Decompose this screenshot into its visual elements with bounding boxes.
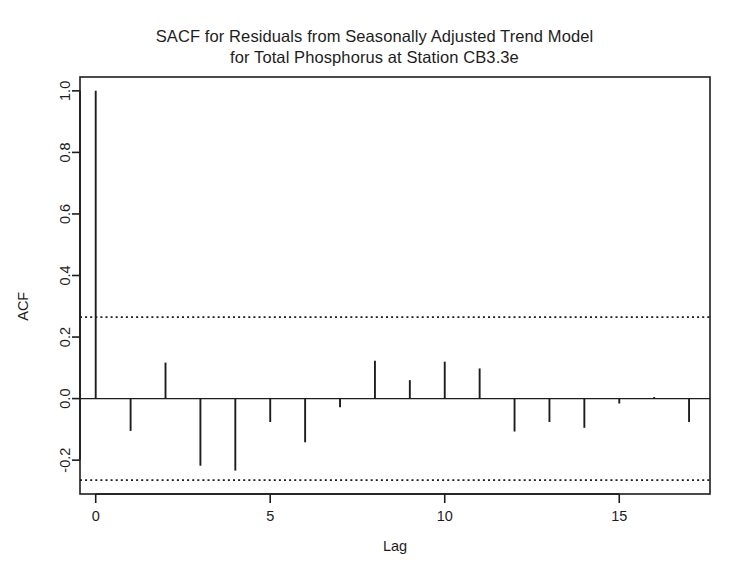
plot-canvas: 1.00.80.60.40.20.0-0.2051015LagACF [0, 0, 749, 580]
x-axis-tick-label: 15 [611, 508, 627, 524]
y-axis-tick-label: 0.0 [57, 389, 73, 409]
y-axis-tick-label: 0.4 [57, 265, 73, 285]
y-axis-tick-label: 0.8 [57, 142, 73, 162]
x-axis-tick-label: 10 [437, 508, 453, 524]
acf-plot-figure: SACF for Residuals from Seasonally Adjus… [0, 0, 749, 580]
y-axis-tick-label: 0.6 [57, 204, 73, 224]
x-axis-tick-label: 0 [92, 508, 100, 524]
y-axis-title: ACF [15, 292, 31, 321]
y-axis-tick-label: 0.2 [57, 327, 73, 347]
y-axis-tick-label: -0.2 [57, 448, 73, 473]
plot-frame [80, 77, 710, 494]
x-axis-title: Lag [383, 538, 407, 554]
y-axis-tick-label: 1.0 [57, 81, 73, 101]
x-axis-tick-label: 5 [266, 508, 274, 524]
